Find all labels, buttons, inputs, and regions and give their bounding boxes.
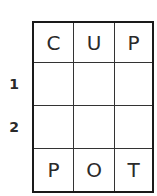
cell-end-2: O <box>74 149 115 191</box>
cell-step2-2[interactable] <box>74 106 115 149</box>
cell-step2-3[interactable] <box>115 106 152 149</box>
cell-step1-1[interactable] <box>34 63 74 106</box>
cell-end-1: P <box>34 149 74 191</box>
row-label-2: 2 <box>8 119 20 135</box>
cell-step1-2[interactable] <box>74 63 115 106</box>
word-ladder-grid: C U P P O T <box>32 21 154 193</box>
row-label-1: 1 <box>8 76 20 92</box>
cell-start-1: C <box>34 23 74 63</box>
cell-start-3: P <box>115 23 152 63</box>
cell-end-3: T <box>115 149 152 191</box>
cell-step2-1[interactable] <box>34 106 74 149</box>
cell-start-2: U <box>74 23 115 63</box>
cell-step1-3[interactable] <box>115 63 152 106</box>
